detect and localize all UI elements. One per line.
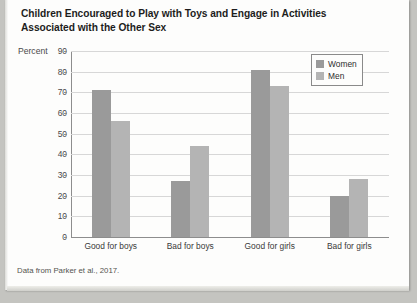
legend-label-men: Men [328,71,344,81]
bar-women-bad-for-boys [171,181,190,237]
y-tick-mark [64,92,67,93]
y-tick-mark [64,72,67,73]
gridline [71,51,389,52]
bar-men-bad-for-boys [190,146,209,237]
y-tick-mark [64,154,67,155]
gridline [71,92,389,93]
page-edge-left [5,0,8,290]
x-axis-line [71,237,389,238]
chart-page: Children Encouraged to Play with Toys an… [0,0,417,303]
y-axis-line [71,51,72,237]
y-tick-mark [64,113,67,114]
bar-women-good-for-girls [251,70,270,237]
page-title: Children Encouraged to Play with Toys an… [21,7,376,35]
gridline [71,113,389,114]
legend-item-women: Women [316,58,357,70]
y-tick-mark [64,175,67,176]
y-tick-mark [64,51,67,52]
bar-men-bad-for-girls [349,179,368,237]
bar-men-good-for-boys [111,121,130,237]
y-tick-mark [64,196,67,197]
bar-men-good-for-girls [270,86,289,237]
source-note: Data from Parker et al., 2017. [17,266,119,275]
y-axis-ticks: 0102030405060708090 [41,51,67,237]
page-edge-bottom [7,286,409,291]
y-tick-mark [64,216,67,217]
legend-swatch-men-icon [316,72,324,80]
y-tick-mark [64,237,67,238]
y-tick-mark [64,134,67,135]
legend-swatch-women-icon [316,60,324,68]
bar-women-bad-for-girls [330,196,349,237]
x-category-label: Bad for girls [299,241,399,251]
legend-item-men: Men [316,70,357,82]
bar-women-good-for-boys [92,90,111,237]
chart-legend: Women Men [311,54,363,86]
legend-label-women: Women [328,59,357,69]
